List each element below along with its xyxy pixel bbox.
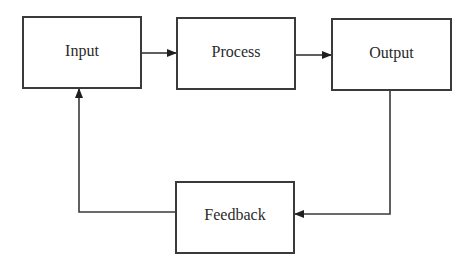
feedback-node-label: Feedback (204, 206, 265, 224)
edge-feedback-to-input (79, 89, 175, 212)
output-node-label: Output (369, 44, 413, 62)
output-node: Output (331, 18, 452, 91)
feedback-node: Feedback (175, 181, 295, 254)
flowchart-canvas: Input Process Output Feedback (0, 0, 476, 271)
input-node: Input (22, 16, 142, 89)
process-node: Process (176, 17, 296, 90)
process-node-label: Process (212, 43, 261, 61)
edge-output-to-feedback (295, 91, 390, 214)
input-node-label: Input (65, 42, 99, 60)
